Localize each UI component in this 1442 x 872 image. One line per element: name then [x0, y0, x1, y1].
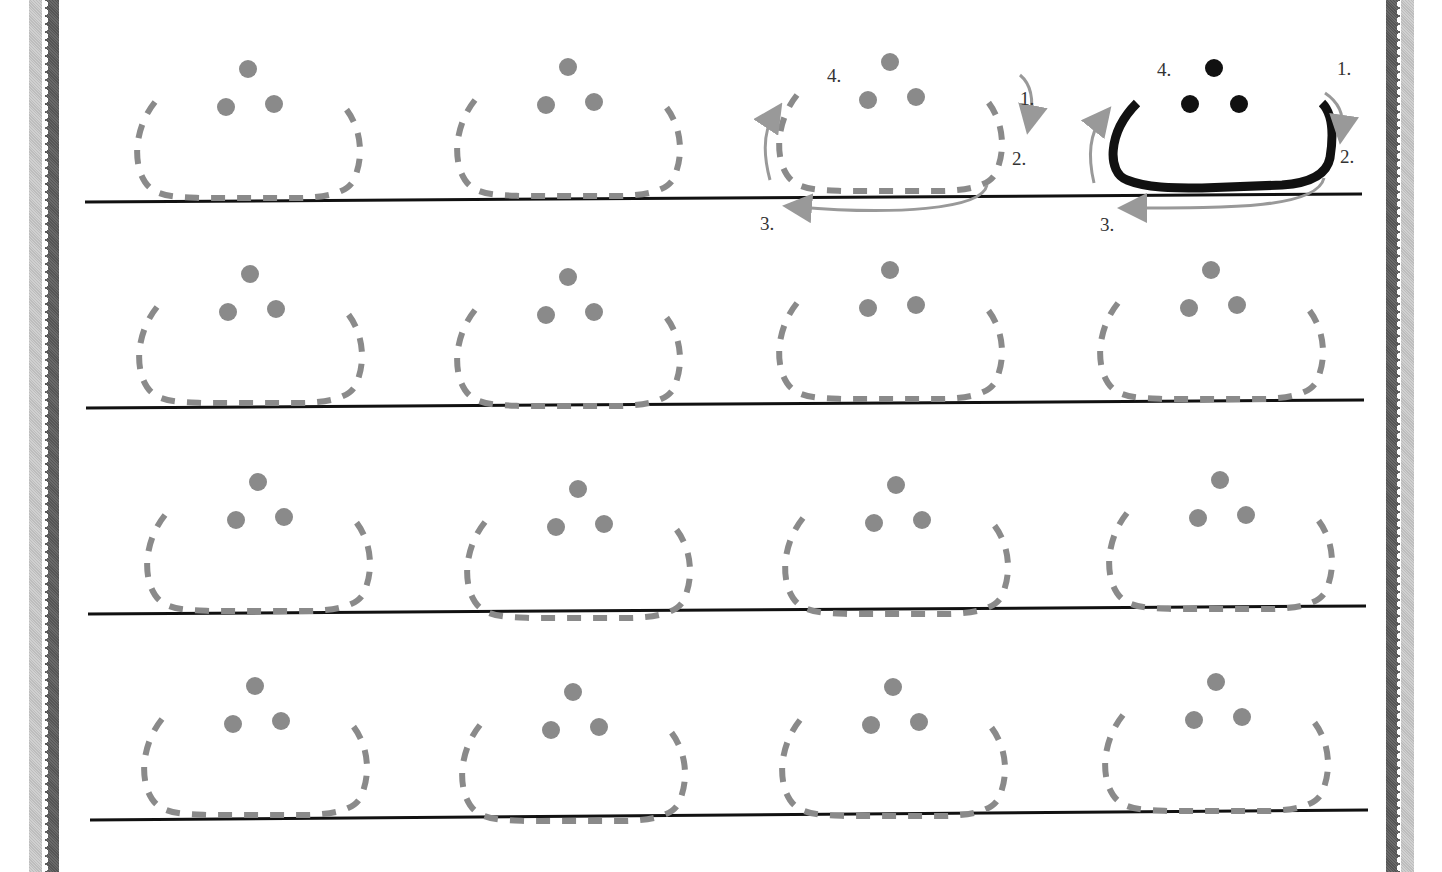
- trace-letter: [457, 58, 680, 196]
- trace-letter: [779, 261, 1002, 399]
- step-label-2: 2.: [1340, 146, 1354, 167]
- guide-letter-with-arrows: 4. 1. 2. 3.: [760, 53, 1034, 234]
- trace-letter: [1105, 673, 1328, 811]
- trace-letter: [467, 480, 690, 618]
- trace-letter: [1109, 471, 1332, 609]
- trace-letter: [144, 677, 367, 815]
- trace-letter: [462, 683, 685, 821]
- step-label-3: 3.: [1100, 214, 1114, 235]
- tracing-worksheet: 4. 1. 2. 3. 4. 1. 2. 3.: [0, 0, 1442, 872]
- trace-letter: [139, 265, 362, 403]
- trace-letter: [137, 60, 360, 198]
- step-label-1: 1.: [1337, 58, 1351, 79]
- trace-letter: [457, 268, 680, 406]
- step-label-3: 3.: [760, 213, 774, 234]
- step-label-2: 2.: [1012, 148, 1026, 169]
- trace-letter: [147, 473, 370, 611]
- step-label-1: 1.: [1020, 88, 1034, 109]
- model-letter-with-arrows: 4. 1. 2. 3.: [1090, 58, 1354, 235]
- step-label-4: 4.: [827, 65, 841, 86]
- step-label-4: 4.: [1157, 59, 1171, 80]
- trace-letter: [782, 678, 1005, 816]
- trace-letter: [1100, 261, 1323, 399]
- trace-letter: [785, 476, 1008, 614]
